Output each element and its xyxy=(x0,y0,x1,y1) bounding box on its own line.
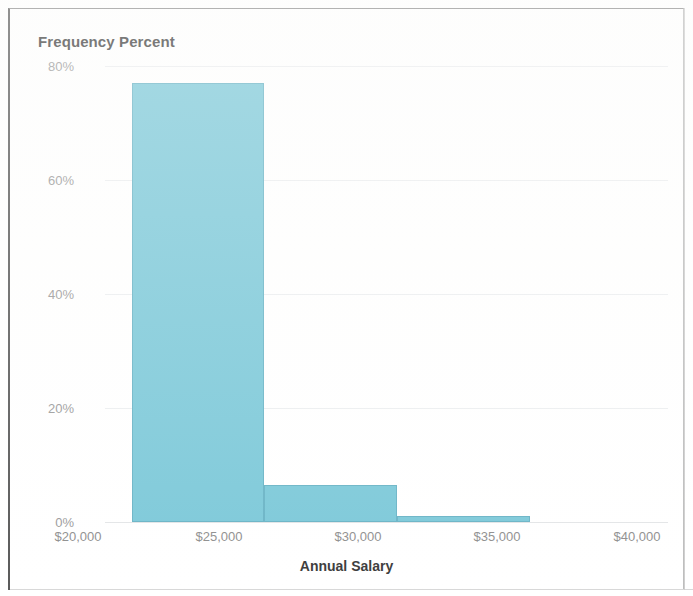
y-tick-label: 60% xyxy=(48,173,74,188)
chart-title: Frequency Percent xyxy=(38,33,175,50)
gridline-0 xyxy=(105,522,668,523)
histogram-bar xyxy=(264,485,397,522)
x-axis-tick-labels: $20,000 $25,000 $30,000 $35,000 $40,000 xyxy=(0,529,693,549)
histogram-bar xyxy=(132,83,265,522)
x-tick-label: $40,000 xyxy=(614,529,661,544)
x-tick-label: $25,000 xyxy=(196,529,243,544)
y-tick-label: 0% xyxy=(55,515,74,530)
x-tick-label: $20,000 xyxy=(55,529,102,544)
y-tick-label: 80% xyxy=(48,59,74,74)
y-axis-tick-labels: 80% 60% 40% 20% 0% xyxy=(32,60,74,522)
y-tick-label: 40% xyxy=(48,287,74,302)
x-tick-label: $30,000 xyxy=(335,529,382,544)
histogram-bars xyxy=(105,66,663,522)
y-tick-label: 20% xyxy=(48,401,74,416)
x-tick-label: $35,000 xyxy=(474,529,521,544)
x-axis-title: Annual Salary xyxy=(0,558,693,574)
histogram-chart: Frequency Percent 80% 60% 40% 20% 0% $20… xyxy=(0,0,693,596)
histogram-bar xyxy=(397,516,530,522)
